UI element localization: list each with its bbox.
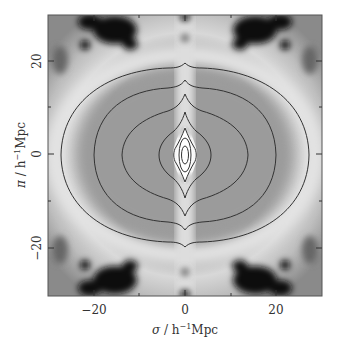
y-tick-label: 0 [30, 150, 44, 158]
x-axis-exponent: −1 [180, 322, 192, 331]
y-axis-unit-suffix: Mpc [14, 122, 28, 149]
y-axis-unit: / h [14, 161, 28, 180]
x-axis-unit-suffix: Mpc [191, 323, 218, 337]
x-tick-label: 0 [181, 303, 189, 317]
x-tick-label: −20 [81, 303, 106, 317]
x-axis-symbol: σ [152, 323, 160, 337]
y-axis-symbol: π [14, 180, 28, 188]
x-axis-unit: / h [160, 323, 179, 337]
x-axis-label: σ / h−1Mpc [152, 322, 218, 337]
correlation-plot [0, 0, 338, 350]
y-tick-label: 20 [30, 53, 44, 68]
y-axis-exponent: −1 [13, 149, 22, 161]
y-axis-label: π / h−1Mpc [13, 122, 28, 188]
y-tick-label: −20 [30, 235, 44, 260]
x-tick-label: 20 [268, 303, 283, 317]
